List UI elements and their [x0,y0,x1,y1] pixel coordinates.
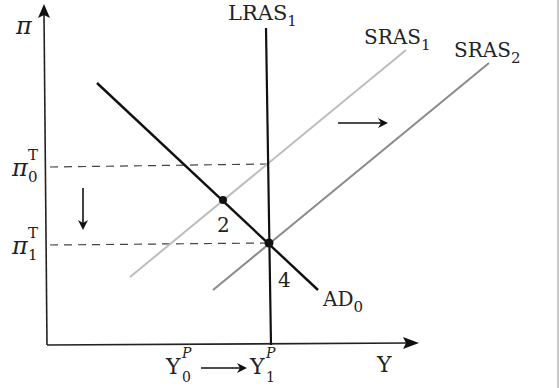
point-4-label: 4 [278,268,291,292]
y-axis-label: π [15,12,33,40]
pi1-target-label: π [11,232,29,260]
sras2-curve [213,63,489,290]
y0-potential-label: Y [165,354,181,379]
y1-potential-label: Y [249,354,265,379]
point-2-label: 2 [217,213,230,237]
equilibrium-point-2 [219,196,227,204]
pi0-dashed-guide [50,164,268,167]
pi0-target-sup: T [28,146,38,164]
equilibrium-point-4 [265,239,274,248]
y1-potential-sup: P [265,345,276,361]
x-axis-label: Y [376,352,392,377]
pi1-target-sub: 1 [28,246,38,264]
x-axis [47,343,410,345]
y-axis [44,14,47,345]
ad0-curve [97,83,318,290]
ad-as-diagram: π Y LRAS1 SRAS1 SRAS2 AD0 2 4 π T 0 π T … [0,0,559,388]
lras-label: LRAS1 [228,1,297,30]
y0-potential-sup: P [181,345,192,361]
pi0-target-label: π [11,154,29,182]
ad0-label: AD0 [322,287,363,316]
pi1-dashed-guide [50,243,268,245]
sras1-label: SRAS1 [364,25,430,54]
y0-potential-sub: 0 [182,369,191,385]
y1-potential-sub: 1 [266,369,275,385]
sras2-label: SRAS2 [454,38,520,67]
lras-curve [266,28,271,345]
pi0-target-sub: 0 [28,168,38,186]
pi1-target-sup: T [28,224,38,242]
